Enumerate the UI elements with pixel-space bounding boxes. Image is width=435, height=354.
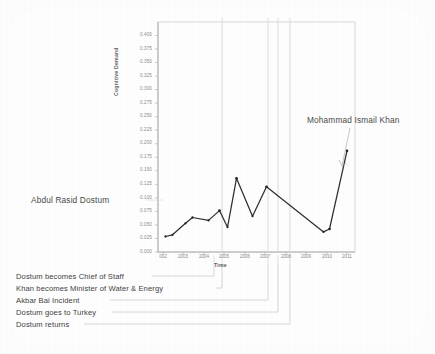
x-axis-title: Time [214,262,227,268]
y-axis-title: Cognitive Demand [113,4,119,96]
y-tick-label: 0.025 [126,236,152,241]
y-tick-label: 0.150 [126,168,152,173]
figure-page: 0.400 0.375 0.350 0.325 0.300 0.275 0.25… [0,0,435,354]
event-annotation-dostum-goes-to-turkey: Dostum goes to Turkey [16,308,96,317]
x-tick-label: 2010 [317,255,337,260]
x-tick-label: 2011 [337,255,357,260]
y-tick-label: 0.325 [126,74,152,79]
x-tick-label: 2008 [276,255,296,260]
x-tick-label: 2003 [173,255,193,260]
chart-area: 0.400 0.375 0.350 0.325 0.300 0.275 0.25… [0,0,435,354]
data-line-cognitive-demand [166,151,348,237]
y-tick-label: 0.000 [126,250,152,255]
data-point-markers [164,149,348,237]
y-tick-label: 0.400 [126,33,152,38]
annotation-mohammad-ismail-khan: Mohammad Ismail Khan [307,115,399,125]
y-tick-label: 0.250 [126,114,152,119]
y-tick-label: 0.050 [126,223,152,228]
y-tick-label: 0.225 [126,128,152,133]
event-annotation-dostum-returns: Dostum returns [16,320,69,329]
y-tick-label: 0.300 [126,87,152,92]
y-tick-label: 0.100 [126,196,152,201]
annotation-abdul-rasid-dostum: Abdul Rasid Dostum [31,195,109,205]
y-tick-label: 0.275 [126,101,152,106]
x-tick-label: 2006 [235,255,255,260]
event-annotation-khan-minister: Khan becomes Minister of Water & Energy [16,284,163,293]
y-tick-label: 0.375 [126,47,152,52]
event-annotation-akbar-bai-incident: Akbar Bai Incident [16,296,79,305]
event-guide-lines [222,18,290,252]
x-tick-label: 002 [153,255,173,260]
y-tick-marks [155,36,158,253]
event-leader-1 [152,264,214,276]
y-tick-label: 0.175 [126,155,152,160]
x-tick-label: 2009 [296,255,316,260]
khan-leader-line [342,128,350,166]
y-tick-label: 0.125 [126,182,152,187]
x-tick-label: 2004 [194,255,214,260]
x-tick-label: 2005 [214,255,234,260]
y-tick-label: 0.075 [126,209,152,214]
event-leader-3 [110,264,268,300]
y-tick-label: 0.350 [126,60,152,65]
x-tick-label: 2007 [255,255,275,260]
plot-frame [158,22,355,252]
event-annotation-dostum-chief-of-staff: Dostum becomes Chief of Staff [16,272,124,281]
y-tick-label: 0.200 [126,141,152,146]
